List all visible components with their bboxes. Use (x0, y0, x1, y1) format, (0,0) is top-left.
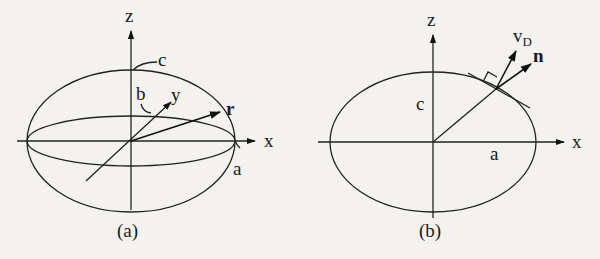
c-pointer-curve (133, 62, 157, 70)
a-pointer-curve (236, 142, 240, 148)
radius-line (433, 89, 496, 142)
c-label: c (158, 49, 166, 70)
z-axis-label: z (125, 5, 133, 26)
x-axis-label: x (572, 131, 582, 152)
vd-vector (496, 51, 516, 89)
right-angle-marker (483, 72, 497, 82)
a-label: a (490, 143, 499, 164)
tangent-line (468, 73, 530, 108)
a-label: a (233, 158, 242, 179)
b-label: b (136, 83, 146, 104)
n-vector (496, 64, 531, 89)
x-axis-label: x (264, 130, 274, 151)
vd-label: vD (513, 25, 532, 49)
panel-b-caption: (b) (419, 220, 441, 242)
panel-a-caption: (a) (117, 220, 138, 242)
y-axis-label: y (171, 84, 181, 105)
n-label: n (533, 45, 544, 66)
panel-a-ellipsoid: z x y c b a r (a) (17, 5, 274, 242)
z-axis-label: z (427, 9, 435, 30)
ellipsoid-figure: z x y c b a r (a) z (0, 0, 600, 259)
b-pointer-curve (141, 104, 151, 113)
r-label: r (226, 98, 235, 119)
panel-b-ellipse: z x c a vD n (b) (318, 9, 582, 242)
c-label: c (416, 93, 424, 114)
